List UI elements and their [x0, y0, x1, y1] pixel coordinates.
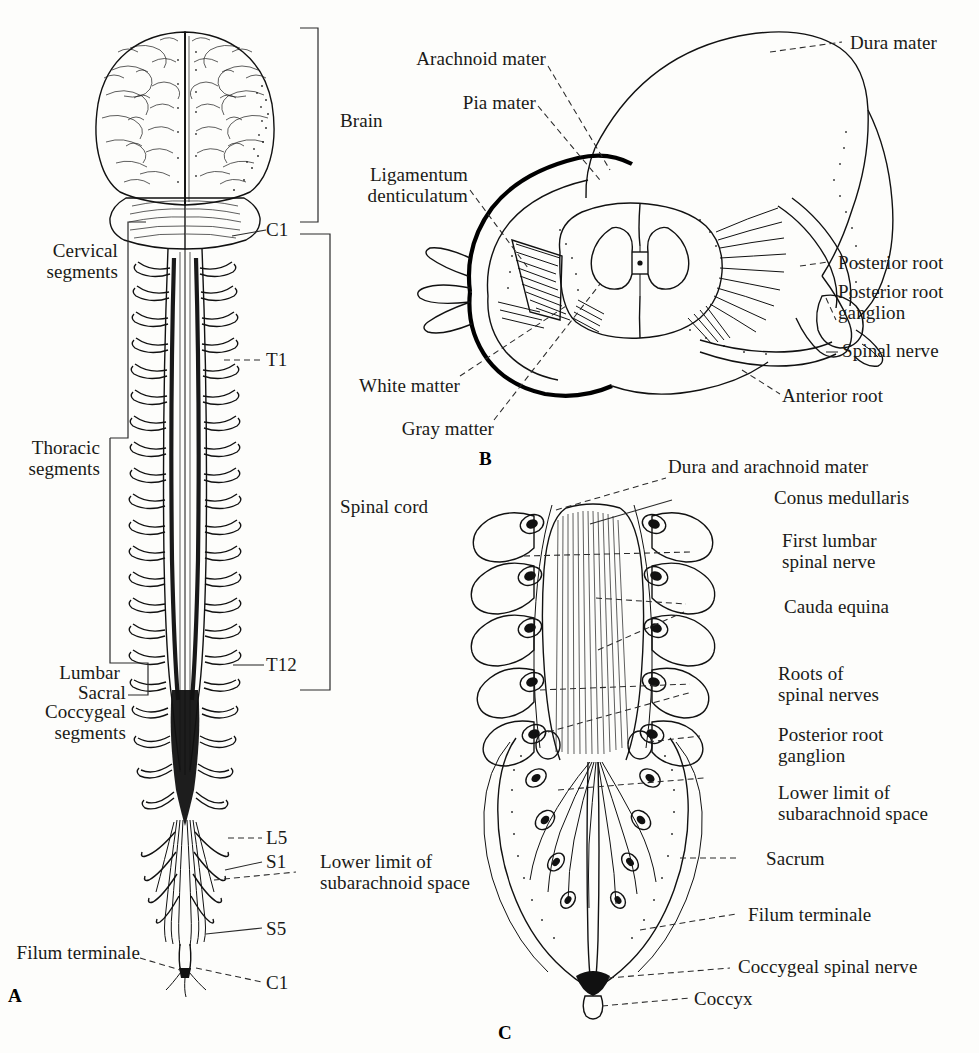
leader-ligamentum: [470, 190, 528, 268]
leader-s5: [206, 928, 262, 934]
label-posterior-root: Posterior root: [838, 252, 943, 273]
label-sacrum: Sacrum: [766, 848, 825, 869]
label-filum-terminale-c: Filum terminale: [748, 904, 871, 925]
leader-white-matter: [460, 306, 566, 376]
label-posterior-root-ganglion-c: Posterior root ganglion: [778, 724, 883, 767]
label-level-c1-top: C1: [266, 219, 288, 240]
label-gray-matter: Gray matter: [350, 418, 494, 439]
label-ligamentum-denticulatum: Ligamentum denticulatum: [340, 164, 468, 207]
panel-a-artwork: [96, 28, 330, 997]
leader-roots-of-spinal-nerves-1: [540, 684, 690, 690]
label-conus-medullaris: Conus medullaris: [774, 487, 909, 508]
leader-posterior-root-ganglion-c: [648, 736, 700, 742]
leader-coccyx: [602, 998, 690, 1006]
label-spinal-cord: Spinal cord: [340, 496, 428, 517]
label-spinal-nerve: Spinal nerve: [842, 340, 939, 361]
leader-cauda-equina-2: [598, 612, 684, 650]
label-dura-mater: Dura mater: [850, 32, 937, 53]
leader-dura-mater: [770, 42, 842, 52]
leader-c1-top: [232, 230, 266, 236]
leader-anterior-root: [742, 370, 780, 394]
panel-c-artwork: [471, 478, 738, 1019]
label-level-t12: T12: [266, 654, 297, 675]
leader-arachnoid-mater: [548, 66, 610, 170]
panel-letter-a: A: [8, 985, 22, 1007]
leader-posterior-root: [800, 262, 828, 266]
label-lower-limit-subarachnoid-c: Lower limit of subarachnoid space: [778, 782, 928, 825]
label-level-l5: L5: [266, 827, 287, 848]
panel-letter-b: B: [479, 448, 492, 470]
label-roots-of-spinal-nerves: Roots of spinal nerves: [778, 663, 879, 706]
leader-dura-and-arachnoid: [556, 478, 666, 510]
label-level-c1-bottom: C1: [266, 972, 288, 993]
label-coccygeal-segments: Coccygeal segments: [0, 701, 126, 744]
leader-c1-bottom: [196, 968, 262, 982]
figure-artwork: [0, 0, 979, 1053]
leader-lower-limit-c: [558, 778, 704, 790]
panel-letter-c: C: [498, 1022, 512, 1044]
label-lumbar: Lumbar: [0, 662, 120, 683]
label-coccyx: Coccyx: [694, 988, 753, 1009]
leader-posterior-root-ganglion: [826, 298, 836, 320]
label-lower-limit-subarachnoid-a: Lower limit of subarachnoid space: [320, 851, 470, 894]
label-level-t1: T1: [266, 349, 287, 370]
label-coccygeal-spinal-nerve: Coccygeal spinal nerve: [738, 956, 917, 977]
label-level-s1: S1: [266, 851, 286, 872]
leader-lower-limit: [214, 872, 296, 880]
leader-s1: [225, 862, 262, 870]
leader-conus-medullaris: [590, 500, 672, 524]
label-first-lumbar-spinal-nerve: First lumbar spinal nerve: [782, 530, 877, 573]
label-posterior-root-ganglion-b: Posterior root ganglion: [838, 281, 943, 324]
leader-coccygeal-nerve: [608, 968, 730, 978]
label-thoracic-segments: Thoracic segments: [0, 437, 100, 480]
label-anterior-root: Anterior root: [782, 385, 883, 406]
leader-roots-of-spinal-nerves-2: [548, 692, 692, 732]
label-pia-mater: Pia mater: [350, 92, 536, 113]
label-white-matter: White matter: [350, 375, 460, 396]
lumbar-vertebrae-left: [471, 511, 548, 766]
label-dura-and-arachnoid-mater: Dura and arachnoid mater: [668, 456, 868, 477]
leader-filum-terminale-c: [640, 914, 736, 930]
anatomy-figure: Brain Cervical segments Thoracic segment…: [0, 0, 979, 1053]
label-arachnoid-mater: Arachnoid mater: [350, 48, 546, 69]
label-cauda-equina: Cauda equina: [784, 596, 889, 617]
panel-b-artwork: [418, 32, 893, 420]
leader-pia-mater: [538, 106, 600, 180]
leader-filum-terminale: [140, 958, 180, 970]
label-cervical-segments: Cervical segments: [0, 240, 118, 283]
leader-gray-matter: [494, 284, 600, 420]
label-filum-terminale-a: Filum terminale: [0, 942, 140, 963]
leader-first-lumbar-nerve: [524, 552, 690, 556]
label-level-s5: S5: [266, 918, 286, 939]
leader-cauda-equina-1: [596, 598, 686, 604]
lumbar-vertebrae-right: [638, 511, 715, 766]
